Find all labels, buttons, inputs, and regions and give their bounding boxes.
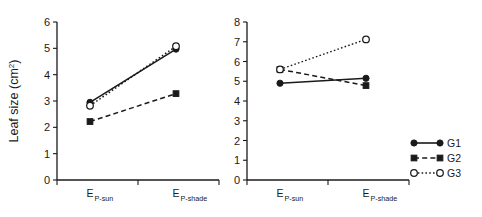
x-category-label: EP-shade xyxy=(362,187,397,203)
y-tick-label: 3 xyxy=(44,95,50,107)
legend-item-G1: G1 xyxy=(411,137,461,149)
x-category-subscript: P-shade xyxy=(181,194,208,203)
y-tick-label: 2 xyxy=(234,135,240,147)
legend-marker xyxy=(411,140,417,146)
legend-label: G2 xyxy=(447,152,461,164)
series-G2 xyxy=(277,67,369,89)
y-axis-title-text: Leaf size (cm2) xyxy=(7,60,22,143)
data-point xyxy=(173,91,179,97)
x-category-subscript: P-sun xyxy=(285,194,304,203)
legend-marker xyxy=(411,170,418,177)
series-line xyxy=(90,49,176,102)
y-tick-label: 0 xyxy=(44,174,50,186)
series-G1 xyxy=(87,46,179,105)
data-point xyxy=(277,66,284,73)
y-tick-label: 1 xyxy=(234,154,240,166)
y-tick-label: 7 xyxy=(234,36,240,48)
two-panel-line-chart: 0123456EP-sunEP-shadeLeaf size (cm2)0123… xyxy=(0,0,482,217)
series-G3 xyxy=(277,36,370,73)
series-line xyxy=(90,94,176,122)
figure-container: 0123456EP-sunEP-shadeLeaf size (cm2)0123… xyxy=(0,0,482,217)
data-point xyxy=(363,75,369,81)
legend-item-G3: G3 xyxy=(411,167,461,179)
panel-left: 0123456EP-sunEP-shadeLeaf size (cm2) xyxy=(7,16,220,203)
y-tick-label: 6 xyxy=(44,16,50,28)
x-category-label: EP-shade xyxy=(172,187,207,203)
y-tick-label: 4 xyxy=(234,95,240,107)
x-category-main: E xyxy=(86,187,93,199)
x-category-subscript: P-shade xyxy=(371,194,398,203)
y-tick-label: 0 xyxy=(234,174,240,186)
legend-label: G3 xyxy=(447,167,461,179)
x-category-main: E xyxy=(172,187,179,199)
y-axis-title: Leaf size (cm2) xyxy=(7,60,22,143)
legend-marker xyxy=(437,170,444,177)
legend-marker xyxy=(411,155,417,161)
legend: G1G2G3 xyxy=(411,137,461,179)
y-tick-label: 3 xyxy=(234,115,240,127)
data-point xyxy=(277,80,283,86)
legend-item-G2: G2 xyxy=(411,152,461,164)
x-category-label: EP-sun xyxy=(86,187,113,203)
y-tick-label: 2 xyxy=(44,121,50,133)
x-category-main: E xyxy=(276,187,283,199)
y-tick-label: 4 xyxy=(44,69,50,81)
x-category-label: EP-sun xyxy=(276,187,303,203)
y-tick-label: 1 xyxy=(44,148,50,160)
data-point xyxy=(363,36,370,43)
series-line xyxy=(280,39,366,69)
data-point xyxy=(173,43,180,50)
y-tick-label: 8 xyxy=(234,16,240,28)
data-point xyxy=(87,102,94,109)
legend-label: G1 xyxy=(447,137,461,149)
data-point xyxy=(363,83,369,89)
legend-marker xyxy=(437,155,443,161)
data-point xyxy=(87,119,93,125)
legend-marker xyxy=(437,140,443,146)
x-category-main: E xyxy=(362,187,369,199)
x-category-subscript: P-sun xyxy=(95,194,114,203)
y-tick-label: 6 xyxy=(234,56,240,68)
panel-right: 012345678EP-sunEP-shade xyxy=(234,16,409,203)
y-tick-label: 5 xyxy=(44,42,50,54)
y-tick-label: 5 xyxy=(234,75,240,87)
